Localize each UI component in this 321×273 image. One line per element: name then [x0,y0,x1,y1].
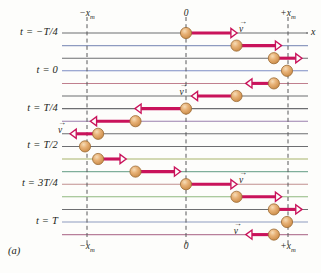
particle-ball [180,27,191,38]
time-label: t = −T/4 [0,26,58,37]
time-label: t = T/2 [0,139,58,150]
particle-ball [281,65,292,76]
velocity-arrow-head [135,104,141,113]
velocity-arrow-head [120,154,126,163]
velocity-arrow-head [231,180,237,189]
velocity-label: →v [179,83,187,97]
axis-tick-subscript: m [90,13,95,20]
particle-ball [93,153,104,164]
axis-tick-text: +x [280,241,291,251]
axis-tick-label: −xm [65,241,109,253]
velocity-arrow-head [90,117,96,126]
particle-ball [268,204,279,215]
axis-tick-text: −x [79,8,90,18]
particle-ball [231,40,242,51]
velocity-arrow-head [275,192,281,201]
axis-tick-text: 0 [184,8,189,18]
velocity-arrow-head [296,54,302,63]
axis-tick-text: +x [280,8,291,18]
shm-snapshot-figure: t = −T/4t = 0t = T/4t = T/2t = 3T/4t = T… [0,0,321,273]
velocity-arrow-head [191,91,197,100]
velocity-symbol: v [239,175,243,185]
velocity-arrow-head [231,28,237,37]
time-label: t = T [0,215,58,226]
axis-tick-text: −x [79,241,90,251]
axis-tick-label: +xm [266,241,310,253]
time-label: t = T/4 [0,102,58,113]
panel-label: (a) [8,245,20,256]
axis-tick-subscript: m [90,245,95,252]
axis-tick-text: 0 [184,241,189,251]
axis-tick-label: 0 [164,8,208,18]
particle-ball [268,78,279,89]
velocity-symbol: v [179,87,183,97]
particle-ball [130,166,141,177]
particle-ball [180,179,191,190]
particle-ball [268,229,279,240]
axis-tick-subscript: m [291,245,296,252]
velocity-arrow-head [174,167,180,176]
velocity-label: →v [239,171,247,185]
particle-ball [231,90,242,101]
velocity-symbol: v [239,24,243,34]
particle-ball [130,116,141,127]
particle-ball [79,141,90,152]
time-label: t = 0 [0,64,58,75]
particle-ball [268,53,279,64]
axis-tick-label: 0 [164,241,208,251]
axis-tick-subscript: m [291,13,296,20]
velocity-symbol: v [234,226,238,236]
velocity-arrow-head [70,129,76,138]
x-axis-label: x [311,26,315,37]
reference-dashed-lines [87,17,288,247]
particle-ball [180,103,191,114]
axis-tick-label: −xm [65,8,109,20]
particle-ball [93,128,104,139]
velocity-arrow-head [275,41,281,50]
particle-ball [231,191,242,202]
particle-ball [281,216,292,227]
figure-canvas [0,0,321,273]
velocity-label: →v [58,121,66,135]
velocity-arrow-head [296,205,302,214]
velocity-arrow-head [246,230,252,239]
time-label: t = 3T/4 [0,177,58,188]
velocity-symbol: v [58,125,62,135]
velocity-arrow-head [246,79,252,88]
velocity-label: →v [239,20,247,34]
velocity-label: →v [234,222,242,236]
axis-tick-label: +xm [266,8,310,20]
